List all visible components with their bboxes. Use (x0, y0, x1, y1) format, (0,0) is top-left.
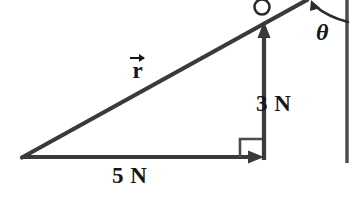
horizontal-force-label: 5 N (112, 164, 147, 187)
vector-r-label: r (130, 54, 145, 82)
vector-arrow-overbar-icon (130, 54, 145, 61)
angle-theta-label: θ (316, 20, 328, 44)
pivot-point-o-icon (255, 0, 270, 15)
vector-diagram-canvas (0, 0, 361, 197)
vertical-force-label: 3 N (256, 92, 291, 115)
figure-root: r 3 N 5 N θ (0, 0, 361, 197)
vector-5n-horizontal (22, 151, 264, 164)
